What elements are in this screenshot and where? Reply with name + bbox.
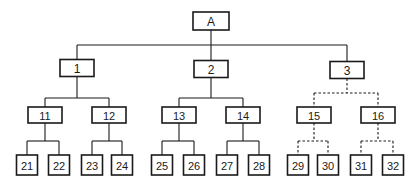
node-label: 26 [188, 160, 200, 172]
node-23: 23 [82, 155, 103, 175]
node-label: 21 [21, 160, 33, 172]
node-31: 31 [351, 155, 372, 175]
node-A: A [193, 12, 229, 30]
tree-diagram: A123111213141516212223242526272829303132 [0, 0, 417, 184]
node-label: 16 [372, 110, 384, 122]
node-label: 11 [39, 110, 50, 122]
node-25: 25 [152, 155, 173, 175]
node-label: 32 [387, 160, 399, 172]
node-21: 21 [17, 155, 38, 175]
node-3: 3 [330, 62, 364, 79]
node-26: 26 [184, 155, 205, 175]
node-32: 32 [383, 155, 404, 175]
node-15: 15 [297, 107, 331, 123]
node-11: 11 [28, 107, 62, 123]
node-22: 22 [49, 155, 70, 175]
node-label: 24 [116, 160, 128, 172]
node-label: 2 [208, 63, 215, 77]
node-label: 30 [322, 160, 334, 172]
node-16: 16 [361, 107, 395, 123]
node-27: 27 [217, 155, 238, 175]
node-30: 30 [318, 155, 339, 175]
node-label: 22 [53, 160, 65, 172]
node-label: 13 [173, 110, 185, 122]
node-label: 3 [344, 64, 351, 78]
node-13: 13 [162, 107, 196, 123]
node-label: 28 [253, 160, 265, 172]
node-label: 29 [292, 160, 304, 172]
node-12: 12 [92, 107, 126, 123]
node-label: A [207, 15, 215, 29]
node-label: 27 [221, 160, 233, 172]
node-1: 1 [60, 60, 94, 77]
node-29: 29 [288, 155, 309, 175]
node-24: 24 [112, 155, 133, 175]
node-label: 25 [156, 160, 168, 172]
node-label: 1 [74, 62, 81, 76]
node-14: 14 [226, 107, 260, 123]
node-2: 2 [194, 61, 228, 78]
node-label: 15 [308, 110, 320, 122]
node-28: 28 [249, 155, 270, 175]
edges [27, 30, 393, 155]
node-label: 12 [103, 110, 115, 122]
node-label: 23 [86, 160, 98, 172]
nodes: A123111213141516212223242526272829303132 [17, 12, 404, 175]
node-label: 14 [237, 110, 249, 122]
node-label: 31 [355, 160, 367, 172]
